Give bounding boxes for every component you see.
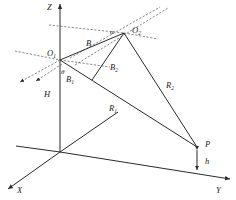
height-h-label: h	[205, 156, 209, 166]
segment-b2-label: B2	[110, 62, 118, 73]
dashed-arrow-left-2	[36, 64, 62, 81]
angle-alpha-label: α	[110, 28, 114, 36]
dashed-line-horizontal-top-ext	[124, 33, 158, 39]
dashed-arrow-left-1	[20, 60, 60, 82]
y-axis-label: Y	[216, 185, 222, 195]
geometry-diagram: Z X Y O1 O2 P B B1 B2 R1 R2 H h α θ	[0, 0, 236, 200]
segment-r1	[60, 60, 197, 147]
segment-b-label: B	[86, 38, 91, 48]
angle-theta-label: θ	[61, 68, 65, 76]
ground-line-left	[16, 146, 60, 152]
z-axis-label: Z	[47, 2, 52, 12]
dashed-line-o1-to-b2	[60, 60, 110, 67]
ground-projection-line	[60, 112, 118, 152]
point-o2-label: O2	[132, 25, 141, 36]
height-H-label: H	[43, 89, 51, 99]
segment-r2-label: R2	[165, 80, 174, 91]
point-p-label: P	[204, 139, 210, 149]
segment-r1-label: R1	[108, 103, 117, 114]
x-axis	[8, 152, 60, 189]
segment-b1-label: B1	[66, 74, 74, 85]
point-o1-label: O1	[47, 48, 56, 59]
x-axis-label: X	[16, 185, 23, 195]
segment-r2	[124, 33, 197, 147]
